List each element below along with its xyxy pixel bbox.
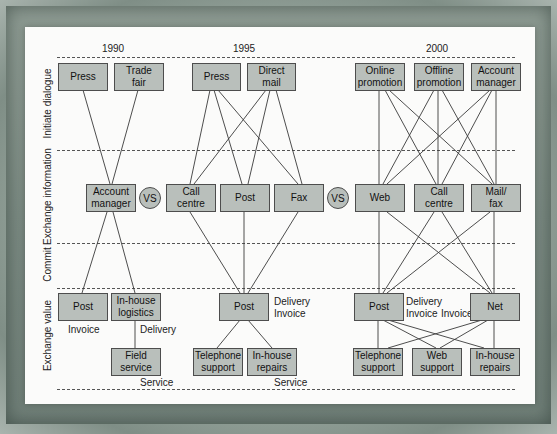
year-1995: 1995 [219, 43, 269, 54]
node-2000-call-centre: Call centre [414, 184, 464, 212]
year-1990: 1990 [88, 43, 138, 54]
node-2000-account-manager: Account manager [471, 63, 521, 91]
note-2000-invoice: Invoice [441, 308, 473, 320]
node-1995-post: Post [220, 184, 270, 212]
node-1990-account-manager: Account manager [86, 184, 136, 212]
row-label-exchange-information: Exchange information [42, 132, 53, 262]
node-1990-inhouse-logistics: In-house logistics [111, 293, 161, 321]
row-label-commit: Commit [42, 245, 53, 285]
node-1995-post-value: Post [219, 293, 269, 321]
node-1990-field-service: Field service [111, 348, 161, 376]
note-2000-delivery-invoice: Delivery Invoice [406, 296, 442, 320]
node-2000-inhouse-repairs: In-house repairs [470, 348, 520, 376]
node-1990-post: Post [58, 293, 108, 321]
separator-initiate-exchange [57, 150, 515, 151]
node-2000-telephone-support: Telephone support [353, 348, 403, 376]
node-1995-direct-mail: Direct mail [247, 63, 296, 91]
node-2000-mail-fax: Mail/ fax [471, 184, 521, 212]
vs-badge-1995-2000: VS [327, 187, 349, 209]
node-1995-press: Press [192, 63, 241, 91]
node-1995-fax: Fax [274, 184, 324, 212]
separator-top [57, 57, 515, 58]
node-2000-web: Web [355, 184, 405, 212]
year-2000: 2000 [412, 43, 462, 54]
vs-badge-1990-1995: VS [139, 187, 161, 209]
node-1990-press: Press [58, 63, 108, 91]
note-1990-service: Service [140, 377, 173, 389]
note-1990-delivery: Delivery [140, 324, 176, 336]
node-1995-inhouse-repairs: In-house repairs [247, 348, 297, 376]
separator-bottom [57, 389, 515, 390]
node-2000-online-promotion: Online promotion [355, 63, 405, 91]
row-label-exchange-value: Exchange value [42, 291, 53, 381]
node-2000-offline-promotion: Offline promotion [414, 63, 464, 91]
note-1995-delivery-invoice: Delivery Invoice [274, 296, 310, 320]
node-2000-web-support: Web support [412, 348, 462, 376]
node-1995-call-centre: Call centre [166, 184, 216, 212]
note-1995-service: Service [274, 377, 307, 389]
note-1990-invoice: Invoice [68, 324, 100, 336]
node-1995-telephone-support: Telephone support [193, 348, 243, 376]
node-2000-net: Net [470, 293, 520, 321]
node-1990-trade-fair: Trade fair [114, 63, 164, 91]
separator-commit-value [57, 288, 515, 289]
separator-exchange-commit [57, 243, 515, 244]
node-2000-post: Post [354, 293, 404, 321]
